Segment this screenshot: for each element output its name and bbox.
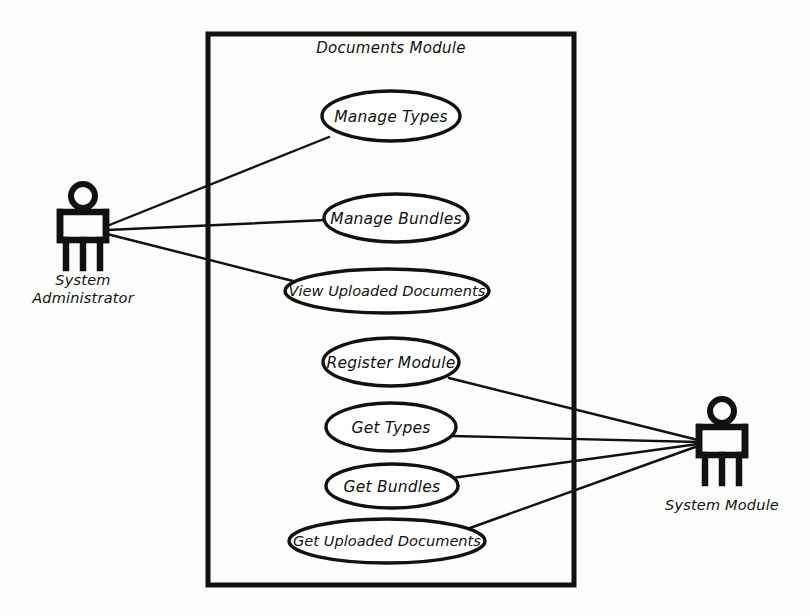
diagram-canvas: Documents Module Manage Types Manage Bun… bbox=[0, 0, 810, 616]
use-case-label: Get Types bbox=[351, 419, 430, 437]
use-case-get-types[interactable]: Get Types bbox=[326, 403, 456, 451]
actor-system-module[interactable]: System Module bbox=[665, 399, 779, 513]
use-case-manage-types[interactable]: Manage Types bbox=[322, 91, 460, 141]
actor-system-administrator[interactable]: System Administrator bbox=[31, 184, 135, 306]
system-boundary-title: Documents Module bbox=[316, 39, 466, 57]
use-case-label: Get Uploaded Documents bbox=[293, 532, 481, 549]
actor-label-line1: System Module bbox=[665, 497, 779, 513]
actor-label-line1: System bbox=[55, 272, 110, 288]
use-case-label: Manage Bundles bbox=[330, 210, 461, 228]
use-case-diagram: Documents Module Manage Types Manage Bun… bbox=[0, 0, 810, 616]
use-case-get-bundles[interactable]: Get Bundles bbox=[326, 464, 458, 508]
association-admin-manage-bundles bbox=[107, 220, 326, 230]
actor-label-line2: Administrator bbox=[31, 290, 135, 306]
use-case-view-uploaded-documents[interactable]: View Uploaded Documents bbox=[285, 269, 489, 313]
use-case-label: Manage Types bbox=[334, 108, 448, 126]
actor-figure-icon bbox=[60, 184, 106, 268]
association-module-get-uploaded-documents bbox=[470, 446, 698, 528]
association-admin-view-uploaded-documents bbox=[107, 234, 293, 281]
association-admin-manage-types bbox=[107, 137, 329, 226]
use-case-label: View Uploaded Documents bbox=[289, 282, 486, 299]
use-case-label: Register Module bbox=[327, 354, 456, 372]
use-case-manage-bundles[interactable]: Manage Bundles bbox=[324, 194, 468, 242]
actor-figure-icon bbox=[699, 399, 745, 483]
use-case-get-uploaded-documents[interactable]: Get Uploaded Documents bbox=[289, 519, 485, 563]
use-case-register-module[interactable]: Register Module bbox=[323, 338, 459, 386]
use-case-label: Get Bundles bbox=[344, 478, 441, 496]
